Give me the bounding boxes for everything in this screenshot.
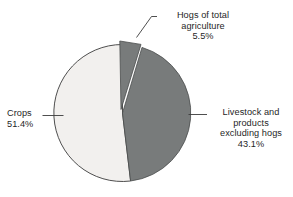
pie-chart-graphic <box>0 0 293 197</box>
pie-label-hogs-line-2: agriculture <box>158 21 248 32</box>
pie-chart: Hogs of total agriculture 5.5% Crops 51.… <box>0 0 293 197</box>
pie-slice-crops <box>54 44 131 181</box>
pie-label-hogs-value: 5.5% <box>158 31 248 42</box>
pie-label-hogs: Hogs of total agriculture 5.5% <box>158 10 248 42</box>
pie-label-livestock: Livestock and products excluding hogs 43… <box>209 107 293 149</box>
pie-label-livestock-line-3: excluding hogs <box>209 128 293 139</box>
pie-label-hogs-line-1: Hogs of total <box>158 10 248 21</box>
pie-label-crops-value: 51.4% <box>7 119 43 130</box>
pie-label-crops-line-1: Crops <box>7 108 43 119</box>
pie-label-livestock-value: 43.1% <box>209 139 293 150</box>
pie-label-livestock-line-2: products <box>209 118 293 129</box>
pie-label-livestock-line-1: Livestock and <box>209 107 293 118</box>
leader-line-hogs <box>137 17 158 38</box>
pie-label-crops: Crops 51.4% <box>7 108 43 129</box>
